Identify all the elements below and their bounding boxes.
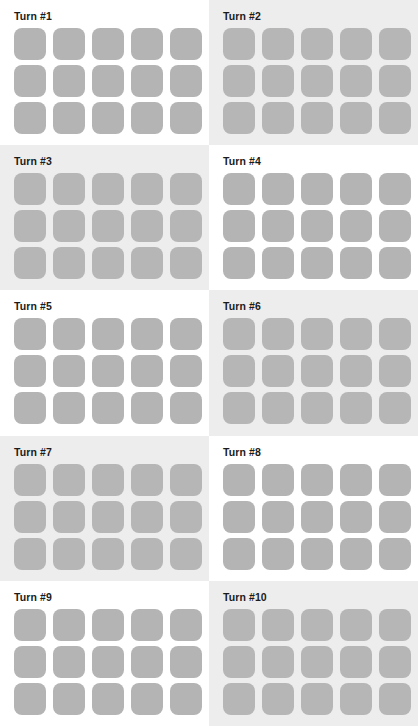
board-tile[interactable]: [170, 646, 202, 678]
board-tile[interactable]: [301, 102, 333, 134]
turn-panel-2[interactable]: Turn #2: [209, 0, 418, 145]
board-tile[interactable]: [262, 28, 294, 60]
board-tile[interactable]: [131, 355, 163, 387]
board-tile[interactable]: [92, 501, 124, 533]
turn-panel-10[interactable]: Turn #10: [209, 581, 418, 726]
board-tile[interactable]: [262, 464, 294, 496]
board-tile[interactable]: [53, 538, 85, 570]
turn-panel-9[interactable]: Turn #9: [0, 581, 209, 726]
turn-panel-3[interactable]: Turn #3: [0, 145, 209, 290]
board-tile[interactable]: [131, 609, 163, 641]
board-tile[interactable]: [92, 65, 124, 97]
board-tile[interactable]: [340, 646, 372, 678]
board-tile[interactable]: [379, 28, 411, 60]
board-tile[interactable]: [92, 173, 124, 205]
board-tile[interactable]: [340, 102, 372, 134]
board-tile[interactable]: [340, 355, 372, 387]
board-tile[interactable]: [301, 318, 333, 350]
board-tile[interactable]: [14, 683, 46, 715]
board-tile[interactable]: [379, 247, 411, 279]
board-tile[interactable]: [340, 538, 372, 570]
board-tile[interactable]: [340, 173, 372, 205]
board-tile[interactable]: [14, 464, 46, 496]
board-tile[interactable]: [340, 464, 372, 496]
board-tile[interactable]: [131, 318, 163, 350]
board-tile[interactable]: [223, 28, 255, 60]
board-tile[interactable]: [170, 28, 202, 60]
board-tile[interactable]: [301, 247, 333, 279]
board-tile[interactable]: [14, 247, 46, 279]
board-tile[interactable]: [170, 464, 202, 496]
board-tile[interactable]: [301, 609, 333, 641]
board-tile[interactable]: [14, 173, 46, 205]
board-tile[interactable]: [131, 28, 163, 60]
board-tile[interactable]: [262, 102, 294, 134]
board-tile[interactable]: [170, 609, 202, 641]
board-tile[interactable]: [53, 173, 85, 205]
turn-panel-4[interactable]: Turn #4: [209, 145, 418, 290]
board-tile[interactable]: [379, 210, 411, 242]
board-tile[interactable]: [301, 464, 333, 496]
board-tile[interactable]: [340, 609, 372, 641]
board-tile[interactable]: [301, 173, 333, 205]
board-tile[interactable]: [301, 683, 333, 715]
board-tile[interactable]: [223, 392, 255, 424]
board-tile[interactable]: [53, 683, 85, 715]
board-tile[interactable]: [14, 646, 46, 678]
board-tile[interactable]: [340, 683, 372, 715]
turn-panel-5[interactable]: Turn #5: [0, 290, 209, 435]
board-tile[interactable]: [131, 683, 163, 715]
board-tile[interactable]: [170, 501, 202, 533]
board-tile[interactable]: [223, 646, 255, 678]
board-tile[interactable]: [53, 355, 85, 387]
board-tile[interactable]: [14, 609, 46, 641]
board-tile[interactable]: [262, 318, 294, 350]
board-tile[interactable]: [53, 609, 85, 641]
board-tile[interactable]: [92, 247, 124, 279]
board-tile[interactable]: [170, 210, 202, 242]
turn-panel-8[interactable]: Turn #8: [209, 436, 418, 581]
board-tile[interactable]: [92, 318, 124, 350]
board-tile[interactable]: [14, 102, 46, 134]
board-tile[interactable]: [301, 28, 333, 60]
board-tile[interactable]: [131, 173, 163, 205]
board-tile[interactable]: [92, 355, 124, 387]
board-tile[interactable]: [223, 683, 255, 715]
board-tile[interactable]: [340, 318, 372, 350]
board-tile[interactable]: [379, 538, 411, 570]
board-tile[interactable]: [379, 646, 411, 678]
board-tile[interactable]: [340, 65, 372, 97]
board-tile[interactable]: [14, 355, 46, 387]
board-tile[interactable]: [53, 102, 85, 134]
board-tile[interactable]: [14, 28, 46, 60]
board-tile[interactable]: [223, 247, 255, 279]
board-tile[interactable]: [379, 355, 411, 387]
board-tile[interactable]: [301, 646, 333, 678]
board-tile[interactable]: [131, 65, 163, 97]
board-tile[interactable]: [131, 247, 163, 279]
board-tile[interactable]: [131, 464, 163, 496]
board-tile[interactable]: [170, 318, 202, 350]
board-tile[interactable]: [170, 65, 202, 97]
board-tile[interactable]: [92, 646, 124, 678]
board-tile[interactable]: [131, 538, 163, 570]
board-tile[interactable]: [340, 210, 372, 242]
board-tile[interactable]: [92, 392, 124, 424]
board-tile[interactable]: [53, 318, 85, 350]
board-tile[interactable]: [262, 173, 294, 205]
board-tile[interactable]: [340, 501, 372, 533]
board-tile[interactable]: [223, 210, 255, 242]
board-tile[interactable]: [301, 392, 333, 424]
board-tile[interactable]: [223, 501, 255, 533]
board-tile[interactable]: [14, 210, 46, 242]
board-tile[interactable]: [170, 247, 202, 279]
board-tile[interactable]: [262, 65, 294, 97]
board-tile[interactable]: [223, 538, 255, 570]
board-tile[interactable]: [340, 392, 372, 424]
board-tile[interactable]: [379, 683, 411, 715]
board-tile[interactable]: [223, 65, 255, 97]
board-tile[interactable]: [340, 247, 372, 279]
board-tile[interactable]: [14, 318, 46, 350]
board-tile[interactable]: [53, 464, 85, 496]
board-tile[interactable]: [379, 102, 411, 134]
